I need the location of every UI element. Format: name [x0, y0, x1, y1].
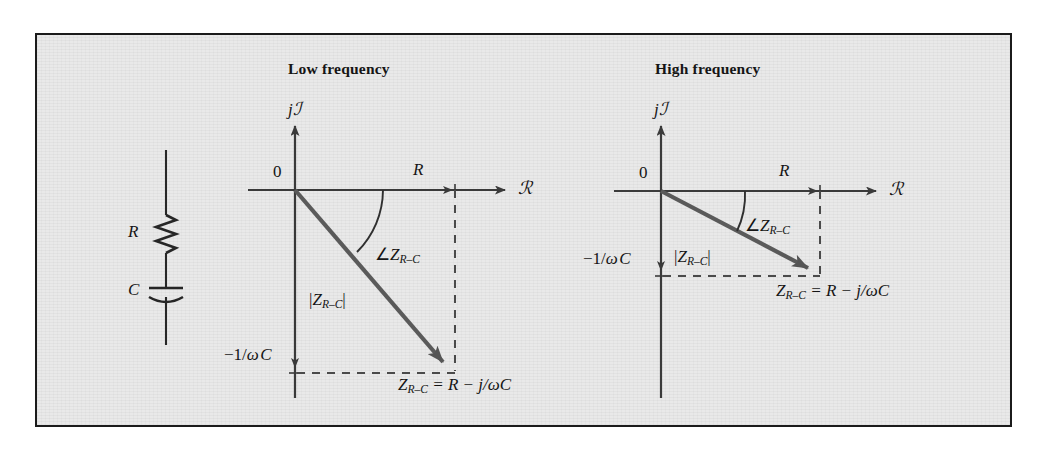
omega-symbol-low: ω: [247, 345, 259, 364]
magnitude-label-high: |ZR–C|: [674, 247, 711, 267]
magnitude-label-low: |ZR–C|: [309, 290, 346, 310]
imag-component-label-high: −1/ωC: [583, 249, 631, 269]
origin-label-high: 0: [639, 163, 648, 183]
C-symbol-low: C: [260, 345, 271, 364]
real-axis-label-high: ℛ: [889, 178, 903, 200]
phasor-diagram-canvas: [0, 0, 1043, 459]
equation-rest-high: = R − j/ωC: [806, 281, 889, 300]
imaginary-axis-label-low: jℐ: [288, 98, 301, 120]
bar-close-low: |: [342, 290, 345, 309]
low-frequency-title: Low frequency: [288, 60, 390, 78]
C-symbol-high: C: [619, 249, 630, 268]
high-frequency-title: High frequency: [655, 60, 760, 78]
imaginary-script-low: ℐ: [293, 99, 301, 119]
imaginary-script-high: ℐ: [659, 99, 667, 119]
equation-subscript-high: R–C: [785, 289, 805, 301]
equation-rest-low: = R − j/ωC: [428, 375, 511, 394]
angle-symbol-high: ∠: [745, 216, 760, 235]
angle-symbol-low: ∠: [375, 245, 390, 264]
resistor-label: R: [128, 222, 138, 242]
equation-label-low: ZR–C = R − j/ωC: [398, 375, 511, 395]
real-axis-label-low: ℛ: [518, 177, 532, 199]
Z-subscript-low: R–C: [322, 298, 342, 310]
angle-label-high: ∠ZR–C: [745, 215, 790, 236]
real-component-label-high: R: [779, 161, 789, 181]
circuit-schematic: [149, 150, 183, 345]
Z-symbol-low: Z: [312, 290, 321, 309]
imaginary-axis-label-high: jℐ: [654, 98, 667, 120]
real-component-label-low: R: [413, 160, 423, 180]
Z-subscript-high: R–C: [687, 255, 707, 267]
capacitor-label: C: [128, 280, 139, 300]
equation-subscript-low: R–C: [407, 383, 427, 395]
omega-symbol-high: ω: [606, 249, 618, 268]
equation-label-high: ZR–C = R − j/ωC: [776, 281, 889, 301]
minus-one-over-high: −1/: [583, 249, 606, 268]
high-frequency-plot: [614, 126, 876, 398]
bar-close-high: |: [707, 247, 710, 266]
minus-one-over-low: −1/: [224, 345, 247, 364]
phasor-vector-low: [295, 190, 443, 362]
imag-component-label-low: −1/ωC: [224, 345, 272, 365]
angle-label-low: ∠ZR–C: [375, 244, 420, 265]
angle-arc-high: [737, 191, 745, 231]
angle-Z-subscript-high: R–C: [769, 224, 789, 236]
angle-Z-subscript-low: R–C: [399, 253, 419, 265]
Z-symbol-high: Z: [677, 247, 686, 266]
origin-label-low: 0: [273, 162, 282, 182]
angle-arc-low: [357, 190, 383, 252]
